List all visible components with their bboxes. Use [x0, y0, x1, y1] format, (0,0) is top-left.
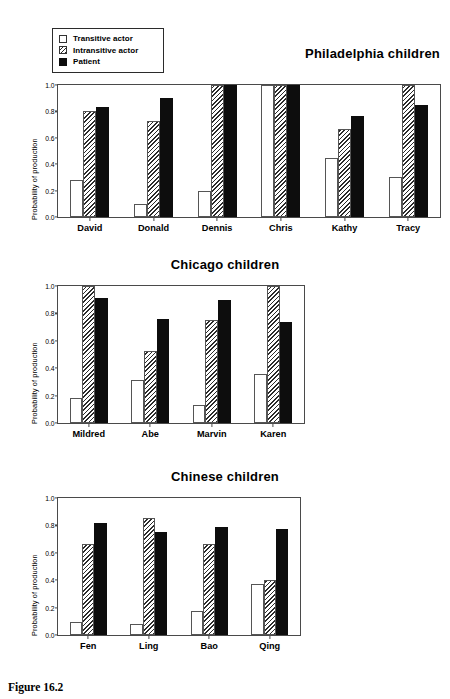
- figure-16-2: Philadelphia children Probability of pro…: [0, 0, 450, 699]
- bar-david-patient: [96, 107, 109, 217]
- x-tick-label-qing: Qing: [259, 641, 280, 651]
- bar-donald-intransitive-actor: [147, 121, 160, 217]
- y-tick-label: 0.6: [45, 134, 58, 141]
- x-tick-mark: [273, 423, 274, 427]
- y-tick-label: 1.0: [45, 82, 58, 89]
- y-axis-label-chicago: Probability of production: [30, 342, 39, 424]
- bar-tracy-patient: [415, 105, 428, 217]
- y-tick-label: 0.4: [45, 577, 58, 584]
- bar-bao-patient: [215, 527, 227, 635]
- bar-chris-patient: [287, 85, 300, 217]
- bar-karen-patient: [280, 322, 293, 423]
- y-tick-label: 0.8: [45, 310, 58, 317]
- legend-item-transitive-actor: Transitive actor: [59, 33, 154, 45]
- bar-david-intransitive-actor: [83, 111, 96, 217]
- bar-mildred-intransitive-actor: [82, 286, 95, 423]
- plot-area-philadelphia: 0.00.20.40.60.81.0DavidDonaldDennisChris…: [57, 84, 441, 218]
- bar-mildred-transitive-actor: [70, 398, 83, 423]
- y-tick-label: 0.4: [45, 365, 58, 372]
- bar-abe-patient: [157, 319, 170, 423]
- x-tick-mark: [88, 635, 89, 639]
- panel-title-philadelphia: Philadelphia children: [305, 46, 440, 61]
- y-tick-label: 0.2: [45, 392, 58, 399]
- x-tick-mark: [89, 217, 90, 221]
- x-tick-mark: [209, 635, 210, 639]
- x-tick-mark: [150, 423, 151, 427]
- legend-swatch-solid-icon: [59, 58, 67, 66]
- bar-mildred-patient: [95, 298, 108, 423]
- x-tick-mark: [344, 217, 345, 221]
- legend-label-transitive-actor: Transitive actor: [73, 34, 133, 43]
- bar-donald-transitive-actor: [134, 204, 147, 217]
- bar-ling-transitive-actor: [130, 624, 142, 635]
- x-tick-mark: [269, 635, 270, 639]
- bar-ling-intransitive-actor: [143, 518, 155, 635]
- bar-chris-intransitive-actor: [274, 85, 287, 217]
- x-tick-mark: [153, 217, 154, 221]
- x-tick-label-chris: Chris: [269, 223, 293, 233]
- y-tick-label: 0.4: [45, 161, 58, 168]
- y-tick-label: 1.0: [45, 495, 58, 502]
- y-tick-label: 0.6: [45, 337, 58, 344]
- bar-dennis-intransitive-actor: [211, 85, 224, 217]
- y-tick-label: 0.6: [45, 549, 58, 556]
- bar-fen-transitive-actor: [70, 622, 82, 635]
- legend-item-patient: Patient: [59, 56, 154, 68]
- bar-tracy-transitive-actor: [389, 177, 402, 217]
- legend-swatch-open-icon: [59, 35, 67, 43]
- y-axis-label-chinese: Probability of production: [30, 554, 39, 636]
- bar-karen-intransitive-actor: [267, 286, 280, 423]
- bar-kathy-transitive-actor: [325, 158, 338, 217]
- bar-qing-intransitive-actor: [264, 580, 276, 635]
- bar-tracy-intransitive-actor: [402, 85, 415, 217]
- bar-marvin-transitive-actor: [193, 405, 206, 423]
- x-tick-mark: [280, 217, 281, 221]
- bar-dennis-patient: [224, 85, 237, 217]
- x-tick-label-kathy: Kathy: [332, 223, 358, 233]
- panel-title-chinese: Chinese children: [0, 469, 450, 484]
- bar-abe-intransitive-actor: [144, 351, 157, 423]
- legend-swatch-hatched-icon: [59, 46, 67, 54]
- panel-chinese: Chinese children Probability of producti…: [0, 464, 450, 674]
- x-tick-mark: [217, 217, 218, 221]
- panel-title-chicago: Chicago children: [0, 257, 450, 272]
- legend-item-intransitive-actor: Intransitive actor: [59, 45, 154, 57]
- bar-donald-patient: [160, 98, 173, 217]
- bar-fen-patient: [94, 523, 106, 635]
- plot-area-chinese: 0.00.20.40.60.81.0FenLingBaoQing: [57, 497, 301, 636]
- bar-bao-intransitive-actor: [203, 544, 215, 635]
- bar-david-transitive-actor: [70, 180, 83, 217]
- x-tick-label-tracy: Tracy: [396, 223, 420, 233]
- y-tick-label: 0.2: [45, 604, 58, 611]
- x-tick-label-karen: Karen: [260, 429, 286, 439]
- bar-bao-transitive-actor: [191, 611, 203, 635]
- x-tick-label-donald: Donald: [138, 223, 169, 233]
- y-tick-label: 0.0: [45, 420, 58, 427]
- x-tick-mark: [211, 423, 212, 427]
- x-tick-label-abe: Abe: [142, 429, 159, 439]
- panel-chicago: Chicago children Probability of producti…: [0, 252, 450, 464]
- plot-area-chicago: 0.00.20.40.60.81.0MildredAbeMarvinKaren: [57, 285, 305, 424]
- bar-qing-transitive-actor: [251, 584, 263, 635]
- bar-kathy-patient: [351, 116, 364, 217]
- bar-dennis-transitive-actor: [198, 191, 211, 217]
- y-tick-label: 0.8: [45, 522, 58, 529]
- figure-caption: Figure 16.2: [8, 681, 63, 693]
- y-axis-label-philadelphia: Probability of production: [30, 138, 39, 220]
- x-tick-label-david: David: [77, 223, 102, 233]
- x-tick-label-marvin: Marvin: [197, 429, 227, 439]
- y-tick-label: 0.8: [45, 108, 58, 115]
- legend-label-patient: Patient: [73, 57, 100, 66]
- chart-legend: Transitive actor Intransitive actor Pati…: [52, 28, 164, 73]
- y-tick-label: 1.0: [45, 283, 58, 290]
- bar-abe-transitive-actor: [131, 380, 144, 423]
- y-tick-label: 0.0: [45, 632, 58, 639]
- x-tick-label-dennis: Dennis: [202, 223, 233, 233]
- y-tick-label: 0.0: [45, 214, 58, 221]
- legend-label-intransitive-actor: Intransitive actor: [73, 46, 138, 55]
- x-tick-mark: [408, 217, 409, 221]
- bar-marvin-intransitive-actor: [205, 320, 218, 423]
- x-tick-label-fen: Fen: [80, 641, 96, 651]
- x-tick-label-bao: Bao: [201, 641, 218, 651]
- bar-marvin-patient: [218, 300, 231, 423]
